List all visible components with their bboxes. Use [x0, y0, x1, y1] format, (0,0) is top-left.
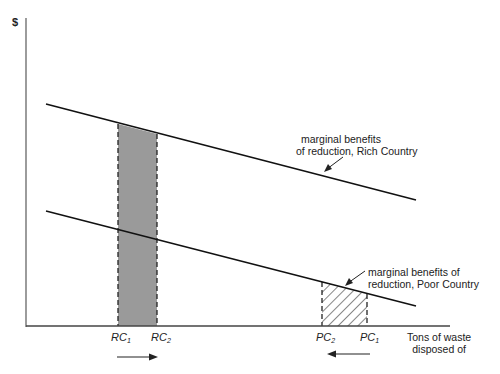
x-label-line2: disposed of [407, 343, 471, 355]
tick-rc2: RC2 [151, 331, 171, 347]
rich-country-line-label: marginal benefits of reduction, Rich Cou… [301, 133, 417, 157]
left-arrow-icon [327, 351, 336, 358]
poor-country-hatched-region [322, 282, 367, 326]
poor-country-mb-line [46, 211, 416, 306]
rich-label-line2: of reduction, Rich Country [296, 145, 417, 157]
poor-pointer-arrowhead-icon [345, 278, 353, 286]
x-label-line1: Tons of waste [407, 331, 471, 343]
rich-pointer-arrowhead-icon [324, 164, 332, 172]
right-arrow-icon [149, 354, 158, 361]
rich-country-shaded-region [118, 124, 157, 326]
x-axis-label: Tons of waste disposed of [407, 331, 471, 355]
diagram-canvas [0, 0, 500, 374]
poor-label-line1: marginal benefits of [368, 266, 479, 278]
poor-country-line-label: marginal benefits of reduction, Poor Cou… [368, 266, 479, 290]
tick-pc2: PC2 [316, 331, 335, 347]
tick-pc1: PC1 [360, 331, 379, 347]
rich-label-line1: marginal benefits [301, 133, 417, 145]
poor-label-line2: reduction, Poor Country [368, 278, 479, 290]
tick-rc1: RC1 [111, 331, 131, 347]
y-axis-label: $ [12, 16, 18, 28]
